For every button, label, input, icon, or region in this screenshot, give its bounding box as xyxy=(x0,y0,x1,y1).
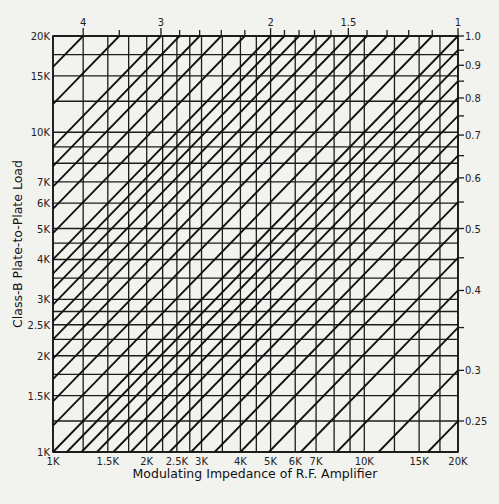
y-tick-label: 15K xyxy=(31,71,51,82)
top-ratio-label: 4 xyxy=(80,17,86,28)
ratio-line xyxy=(53,36,200,187)
top-ratio-label: 1 xyxy=(455,17,461,28)
ratio-line xyxy=(53,36,119,104)
ratio-line xyxy=(113,98,458,452)
ratio-lines xyxy=(53,36,458,452)
x-tick-label: 15K xyxy=(409,456,429,467)
right-ratio-label: 0.5 xyxy=(465,224,481,235)
y-tick-label: 10K xyxy=(31,127,51,138)
y-axis-tick-labels: 1K1.5K2K2.5K3K4K5K6K7K10K15K20K xyxy=(28,31,51,458)
x-tick-label: 1.5K xyxy=(97,456,120,467)
right-ratio-label: 0.8 xyxy=(465,93,481,104)
ratio-line xyxy=(53,36,367,359)
y-tick-label: 2.5K xyxy=(28,320,51,331)
ratio-line xyxy=(379,370,458,452)
ratio-line xyxy=(53,36,221,209)
ratio-line xyxy=(240,229,458,452)
y-tick-label: 6K xyxy=(37,198,50,209)
y-tick-label: 2K xyxy=(37,351,50,362)
top-ratio-label: 3 xyxy=(158,17,164,28)
ratio-line xyxy=(169,156,458,452)
ratio-line xyxy=(53,36,284,274)
y-tick-label: 3K xyxy=(37,294,50,305)
right-ratio-label: 0.4 xyxy=(465,285,481,296)
x-tick-label: 20K xyxy=(448,456,468,467)
y-tick-label: 1K xyxy=(37,447,50,458)
ratio-line xyxy=(53,36,83,67)
ratio-line xyxy=(428,421,458,452)
ratio-line xyxy=(131,116,458,452)
y-tick-label: 4K xyxy=(37,254,50,265)
right-ratio-label: 1.0 xyxy=(465,31,481,42)
right-ratio-label: 0.25 xyxy=(465,416,487,427)
ratio-line xyxy=(269,258,458,452)
right-ratio-labels: 1.00.90.80.70.60.50.40.30.25 xyxy=(465,31,487,427)
ratio-line xyxy=(67,50,458,452)
right-ratio-label: 0.3 xyxy=(465,365,481,376)
right-ratio-label: 0.7 xyxy=(465,130,481,141)
y-tick-label: 7K xyxy=(37,177,50,188)
nomograph-chart: 1K1.5K2K2.5K3K4K5K6K7K10K15K20K 1K1.5K2K… xyxy=(0,0,499,504)
y-tick-label: 20K xyxy=(31,31,51,42)
top-ratio-label: 1.5 xyxy=(340,17,356,28)
top-ratio-labels: 4321.51 xyxy=(80,17,461,28)
y-axis-title: Class-B Plate-to-Plate Load xyxy=(10,160,25,328)
top-ratio-label: 2 xyxy=(267,17,273,28)
ratio-line xyxy=(81,65,458,452)
ratio-line xyxy=(149,135,458,452)
right-ratio-label: 0.9 xyxy=(465,60,481,71)
right-ratio-label: 0.6 xyxy=(465,173,481,184)
x-axis-title: Modulating Impedance of R.F. Amplifier xyxy=(133,466,379,481)
ratio-line xyxy=(97,81,458,452)
y-tick-label: 1.5K xyxy=(28,391,51,402)
y-tick-label: 5K xyxy=(37,224,50,235)
